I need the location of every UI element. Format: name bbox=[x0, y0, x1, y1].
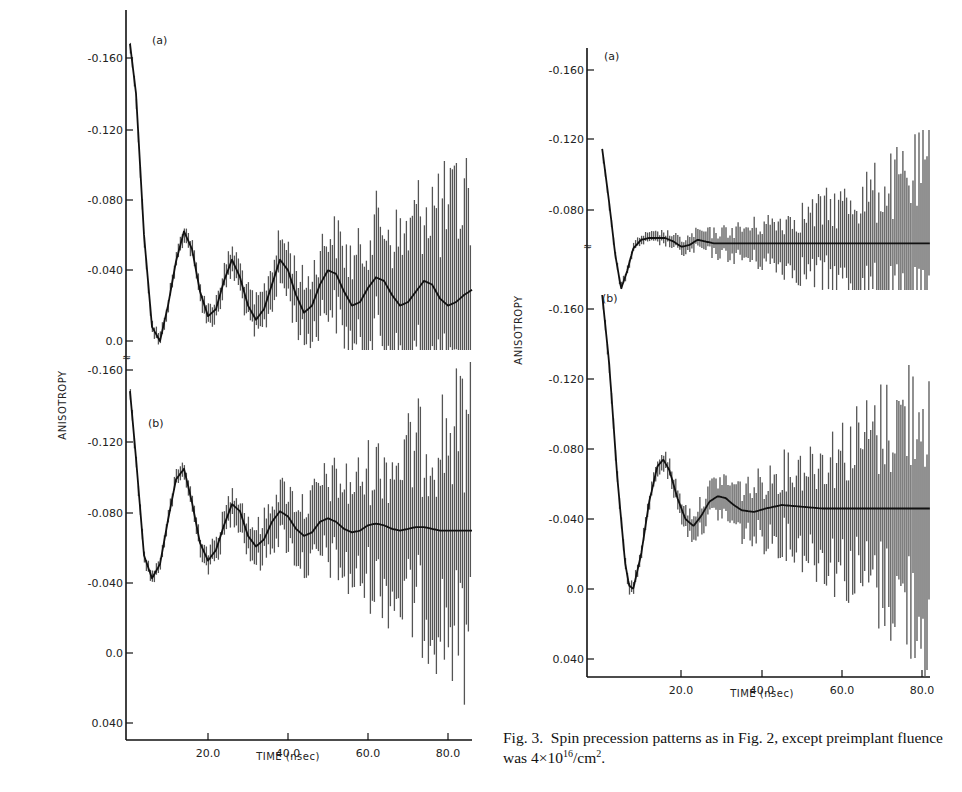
panel-label: (a) bbox=[604, 50, 619, 63]
y-tick-label: -0.160 bbox=[549, 303, 584, 316]
caption-prefix: Fig. 3. bbox=[503, 729, 543, 746]
panel-label: (b) bbox=[602, 292, 618, 305]
y-tick-label: 0.040 bbox=[553, 653, 585, 666]
panel-label: (a) bbox=[152, 34, 167, 47]
left-chart: 20.040.060.080.0TIME (nsec)ANISOTROPY≈-0… bbox=[57, 10, 472, 762]
y-tick-label: -0.120 bbox=[88, 124, 123, 137]
x-tick-label: 80.0 bbox=[910, 684, 935, 697]
right-chart: 20.040.060.080.0TIME (nsec)ANISOTROPY≈-0… bbox=[513, 48, 934, 699]
y-axis-title: ANISOTROPY bbox=[57, 370, 68, 440]
y-tick-label: 0.0 bbox=[567, 583, 585, 596]
y-tick-label: -0.080 bbox=[88, 507, 123, 520]
y-tick-label: -0.120 bbox=[88, 436, 123, 449]
figure-canvas: 20.040.060.080.0TIME (nsec)ANISOTROPY≈-0… bbox=[0, 0, 962, 792]
error-bars bbox=[603, 130, 929, 290]
y-tick-label: -0.120 bbox=[549, 133, 584, 146]
y-tick-label: -0.160 bbox=[88, 52, 123, 65]
y-tick-label: 0.040 bbox=[92, 717, 124, 730]
x-tick-label: 80.0 bbox=[436, 747, 461, 760]
y-tick-label: -0.160 bbox=[549, 64, 584, 77]
y-tick-label: -0.040 bbox=[88, 577, 123, 590]
y-tick-label: 0.0 bbox=[106, 647, 124, 660]
y-axis-title: ANISOTROPY bbox=[513, 295, 524, 365]
y-tick-label: -0.040 bbox=[88, 264, 123, 277]
x-tick-label: 20.0 bbox=[669, 684, 694, 697]
y-tick-label: -0.120 bbox=[549, 373, 584, 386]
x-axis-title: TIME (nsec) bbox=[255, 751, 320, 762]
caption-end: . bbox=[601, 749, 605, 766]
caption-exponent: 16 bbox=[563, 748, 573, 759]
y-tick-label: -0.040 bbox=[549, 513, 584, 526]
y-tick-label: -0.080 bbox=[549, 443, 584, 456]
caption-unit: /cm bbox=[573, 749, 596, 766]
x-axis-title: TIME (nsec) bbox=[729, 688, 794, 699]
y-tick-label: -0.160 bbox=[88, 364, 123, 377]
x-tick-label: 20.0 bbox=[196, 747, 221, 760]
y-tick-label: -0.080 bbox=[549, 204, 584, 217]
y-tick-label: 0.0 bbox=[106, 335, 124, 348]
panel-label: (b) bbox=[148, 417, 164, 430]
axis-break-icon: ≈ bbox=[583, 240, 592, 253]
figure-caption: Fig. 3. Spin precession patterns as in F… bbox=[503, 728, 943, 768]
y-tick-label: -0.080 bbox=[88, 194, 123, 207]
x-tick-label: 60.0 bbox=[830, 684, 855, 697]
x-tick-label: 60.0 bbox=[356, 747, 381, 760]
axis-break-icon: ≈ bbox=[122, 351, 131, 364]
